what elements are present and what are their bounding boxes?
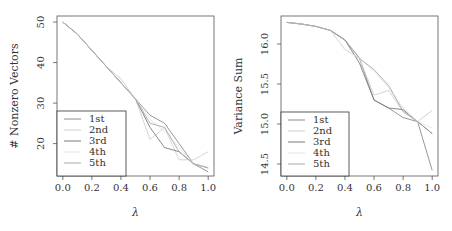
x-tick-label: 0.2 — [308, 182, 324, 193]
x-axis-label: λ — [355, 206, 363, 219]
y-tick-label: 50 — [35, 16, 46, 29]
y-tick-label: 30 — [35, 97, 46, 110]
x-tick-label: 0.8 — [171, 182, 187, 193]
y-tick-label: 40 — [35, 56, 46, 69]
panel-variance-sum: 0.00.20.40.60.81.014.515.015.516.0λVaria… — [232, 16, 440, 219]
legend-label-1st: 1st — [313, 114, 329, 125]
x-tick-label: 0.2 — [84, 182, 100, 193]
series-line-2nd — [287, 22, 432, 121]
x-tick-label: 1.0 — [424, 182, 440, 193]
x-tick-label: 0.6 — [142, 182, 158, 193]
y-tick-label: 15.5 — [259, 73, 270, 95]
legend-label-2nd: 2nd — [313, 125, 333, 136]
y-axis-label: Variance Sum — [232, 57, 245, 136]
x-axis-label: λ — [131, 206, 139, 219]
legend-label-4th: 4th — [313, 147, 330, 158]
panel-nonzero-vectors: 0.00.20.40.60.81.020304050λ# Nonzero Vec… — [8, 16, 216, 219]
y-tick-label: 20 — [35, 137, 46, 150]
y-axis-label: # Nonzero Vectors — [8, 43, 21, 149]
legend: 1st2nd3rd4th5th — [281, 112, 349, 176]
y-tick-label: 15.0 — [259, 113, 270, 135]
legend-label-5th: 5th — [89, 157, 106, 168]
y-tick-label: 14.5 — [259, 153, 270, 175]
x-tick-label: 0.4 — [113, 182, 129, 193]
y-tick-label: 16.0 — [259, 33, 270, 55]
x-tick-label: 0.0 — [55, 182, 71, 193]
x-tick-label: 0.6 — [366, 182, 382, 193]
legend: 1st2nd3rd4th5th — [57, 111, 126, 176]
legend-label-3rd: 3rd — [89, 135, 107, 146]
legend-label-1st: 1st — [89, 113, 105, 124]
x-tick-label: 0.0 — [279, 182, 295, 193]
x-tick-label: 0.4 — [337, 182, 353, 193]
x-tick-label: 1.0 — [200, 182, 216, 193]
legend-label-5th: 5th — [313, 158, 330, 169]
legend-label-2nd: 2nd — [89, 124, 109, 135]
legend-label-4th: 4th — [89, 146, 106, 157]
x-tick-label: 0.8 — [395, 182, 411, 193]
legend-label-3rd: 3rd — [313, 136, 331, 147]
chart-figure: 0.00.20.40.60.81.020304050λ# Nonzero Vec… — [0, 0, 452, 231]
